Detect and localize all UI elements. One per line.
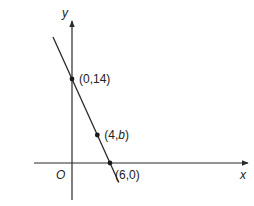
point-label-mid-point: (4,b) (104, 128, 129, 142)
coordinate-diagram: y x O (0,14)(4,b)(6,0) (0, 0, 254, 206)
point-label-x-intercept: (6,0) (115, 168, 140, 182)
x-axis-label: x (239, 168, 247, 182)
points-layer: (0,14)(4,b)(6,0) (70, 72, 140, 182)
y-axis-label: y (61, 6, 69, 20)
point-y-intercept (70, 77, 75, 82)
point-mid-point (95, 133, 100, 138)
point-label-y-intercept: (0,14) (79, 72, 110, 86)
graph-line (53, 37, 119, 183)
origin-label: O (56, 168, 65, 182)
point-x-intercept (108, 161, 113, 166)
